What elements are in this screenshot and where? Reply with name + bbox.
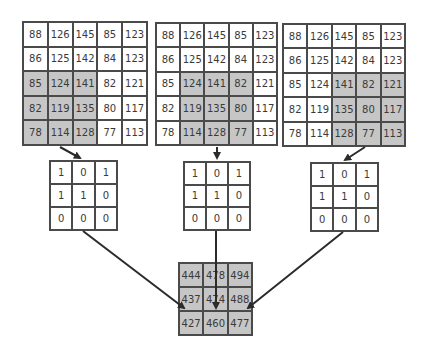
input-cell: 128	[204, 121, 228, 145]
output-cell: 474	[203, 287, 227, 311]
input-cell: 135	[332, 97, 356, 121]
kernel-cell: 0	[356, 208, 378, 231]
kernel-cell: 0	[356, 186, 378, 209]
input-cell: 125	[307, 48, 331, 72]
input-cell: 82	[23, 96, 48, 121]
input-cell: 141	[73, 71, 98, 96]
output-cell: 477	[228, 311, 252, 335]
input-cell: 84	[356, 48, 380, 72]
input-cell: 126	[180, 23, 204, 47]
kernel-cell: 0	[228, 185, 250, 208]
output-cell: 444	[179, 263, 203, 287]
input-cell: 119	[307, 97, 331, 121]
kernel-cell: 0	[206, 207, 228, 230]
input-cell: 123	[122, 22, 147, 47]
input-cell: 114	[307, 122, 331, 146]
kernel-cell: 0	[333, 163, 355, 186]
input-cell: 82	[229, 72, 253, 96]
input-cell: 82	[356, 73, 380, 97]
kernel-cell: 1	[50, 184, 72, 207]
output-cell: 494	[228, 263, 252, 287]
input-cell: 77	[356, 122, 380, 146]
output-cell: 460	[203, 311, 227, 335]
input-cell: 77	[97, 120, 122, 145]
input-cell: 85	[356, 24, 380, 48]
input-cell: 113	[253, 121, 277, 145]
kernel-cell: 1	[184, 185, 206, 208]
input-cell: 113	[122, 120, 147, 145]
input-cell: 84	[97, 47, 122, 72]
input-cell: 86	[23, 47, 48, 72]
kernel-cell: 1	[206, 185, 228, 208]
arrow-kernel1-to-output	[83, 231, 184, 308]
input-cell: 121	[381, 73, 405, 97]
input-cell: 126	[307, 24, 331, 48]
input-cell: 128	[332, 122, 356, 146]
kernel-grid-2: 101110000	[183, 161, 251, 231]
input-cell: 114	[48, 120, 73, 145]
kernel-cell: 1	[311, 163, 333, 186]
kernel-cell: 1	[72, 184, 94, 207]
input-cell: 124	[48, 71, 73, 96]
input-cell: 86	[283, 48, 307, 72]
kernel-grid-1: 101110000	[49, 160, 118, 231]
input-cell: 117	[253, 96, 277, 120]
kernel-cell: 1	[95, 161, 117, 184]
input-cell: 82	[156, 96, 180, 120]
input-cell: 80	[97, 96, 122, 121]
input-cell: 78	[23, 120, 48, 145]
arrow-grid1-to-kernel1	[60, 147, 80, 158]
kernel-cell: 0	[228, 207, 250, 230]
input-cell: 123	[253, 47, 277, 71]
output-grid: 444478494437474488427460477	[178, 262, 253, 336]
kernel-cell: 0	[95, 184, 117, 207]
input-cell: 123	[381, 48, 405, 72]
input-cell: 78	[156, 121, 180, 145]
input-cell: 85	[23, 71, 48, 96]
input-cell: 145	[332, 24, 356, 48]
input-cell: 142	[332, 48, 356, 72]
kernel-cell: 1	[228, 162, 250, 185]
input-cell: 85	[97, 22, 122, 47]
input-cell: 88	[283, 24, 307, 48]
input-cell: 119	[180, 96, 204, 120]
input-cell: 141	[332, 73, 356, 97]
input-cell: 84	[229, 47, 253, 71]
kernel-cell: 0	[50, 207, 72, 230]
input-cell: 124	[180, 72, 204, 96]
input-cell: 85	[283, 73, 307, 97]
input-cell: 126	[48, 22, 73, 47]
kernel-cell: 1	[311, 186, 333, 209]
input-cell: 85	[156, 72, 180, 96]
input-cell: 80	[356, 97, 380, 121]
input-cell: 124	[307, 73, 331, 97]
input-cell: 117	[381, 97, 405, 121]
input-cell: 123	[253, 23, 277, 47]
kernel-cell: 1	[184, 162, 206, 185]
input-cell: 121	[122, 71, 147, 96]
input-cell: 85	[229, 23, 253, 47]
arrow-kernel3-to-output	[248, 232, 343, 308]
input-cell: 78	[283, 122, 307, 146]
input-cell: 77	[229, 121, 253, 145]
input-grid-3: 8812614585123861251428412385124141821218…	[282, 23, 406, 147]
kernel-cell: 0	[206, 162, 228, 185]
input-cell: 123	[122, 47, 147, 72]
input-cell: 128	[73, 120, 98, 145]
kernel-cell: 0	[333, 208, 355, 231]
kernel-cell: 0	[311, 208, 333, 231]
input-cell: 82	[283, 97, 307, 121]
input-cell: 135	[204, 96, 228, 120]
input-cell: 145	[73, 22, 98, 47]
kernel-cell: 0	[184, 207, 206, 230]
kernel-cell: 1	[50, 161, 72, 184]
input-cell: 114	[180, 121, 204, 145]
input-cell: 125	[48, 47, 73, 72]
input-cell: 125	[180, 47, 204, 71]
input-cell: 82	[97, 71, 122, 96]
input-cell: 142	[73, 47, 98, 72]
output-cell: 488	[228, 287, 252, 311]
input-cell: 142	[204, 47, 228, 71]
input-cell: 86	[156, 47, 180, 71]
kernel-grid-3: 101110000	[310, 162, 379, 232]
